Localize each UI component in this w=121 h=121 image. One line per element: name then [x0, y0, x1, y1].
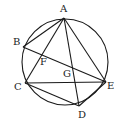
segment-ab [23, 18, 64, 47]
label-f: F [40, 56, 47, 67]
segment-ad [64, 18, 79, 106]
geometry-figure: A B C D E F G [0, 0, 121, 121]
label-e: E [107, 80, 114, 91]
label-d: D [78, 109, 86, 120]
label-g: G [63, 68, 71, 79]
segment-ce [25, 82, 106, 83]
segment-de [79, 82, 106, 106]
label-b: B [13, 36, 20, 47]
label-a: A [59, 3, 68, 14]
label-c: C [14, 81, 22, 92]
